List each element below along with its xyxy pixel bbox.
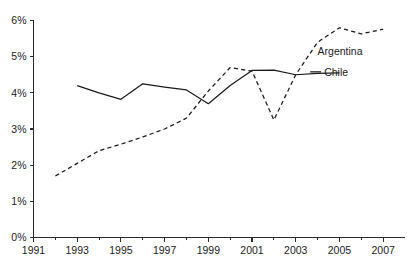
- y-tick-label: 2%: [11, 159, 26, 171]
- y-tick-label: 1%: [11, 195, 26, 207]
- x-tick-label: 2003: [284, 244, 308, 256]
- x-tick-label: 1999: [197, 244, 221, 256]
- y-tick-label: 6%: [11, 14, 26, 26]
- x-tick-label: 1997: [153, 244, 177, 256]
- x-tick-label: 2007: [371, 244, 395, 256]
- x-tick-label: 1995: [109, 244, 133, 256]
- x-tick-label: 2001: [240, 244, 264, 256]
- y-tick-label: 5%: [11, 50, 26, 62]
- chart-background: [0, 0, 413, 270]
- y-tick-label: 3%: [11, 123, 26, 135]
- y-tick-label: 4%: [11, 87, 26, 99]
- y-tick-label: 0%: [11, 231, 26, 243]
- chart-canvas: 0%1%2%3%4%5%6% 1991199319951997199920012…: [0, 0, 413, 270]
- x-tick-label: 1991: [22, 244, 46, 256]
- x-tick-label: 1993: [66, 244, 90, 256]
- line-chart: 0%1%2%3%4%5%6% 1991199319951997199920012…: [0, 0, 413, 270]
- series-label-argentina: Argentina: [318, 45, 363, 57]
- series-label-chile: Chile: [324, 66, 348, 78]
- x-tick-label: 2005: [328, 244, 352, 256]
